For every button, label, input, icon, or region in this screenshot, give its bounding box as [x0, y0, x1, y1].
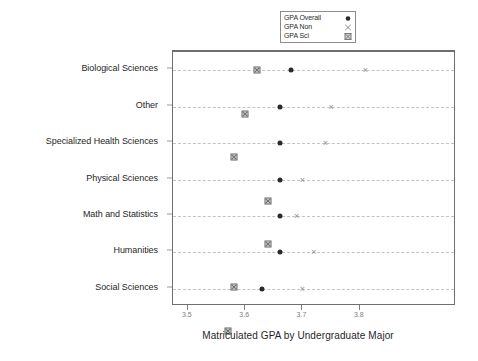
- legend-label: GPA Sci: [284, 31, 309, 40]
- crossed-square-icon: [343, 31, 353, 41]
- x-axis-tick-label: 3.8: [354, 311, 364, 318]
- category-label: Math and Statistics: [83, 209, 158, 219]
- category-gridline: [173, 107, 454, 108]
- x-axis-tick-label: 3.6: [239, 311, 249, 318]
- data-point-gpa-overall: [277, 177, 282, 182]
- category-gridline: [173, 70, 454, 71]
- x-axis-tick: [244, 305, 245, 310]
- legend-label: GPA Non: [284, 22, 312, 31]
- data-point-gpa-sci: [230, 284, 237, 291]
- x-axis-tick-label: 3.5: [182, 311, 192, 318]
- data-point-gpa-overall: [277, 250, 282, 255]
- category-axis-labels: Biological SciencesOtherSpecialized Heal…: [0, 50, 166, 305]
- category-gridline: [173, 180, 454, 181]
- data-point-gpa-sci: [230, 154, 237, 161]
- category-tick: [167, 213, 172, 214]
- category-gridline: [173, 216, 454, 217]
- category-label: Humanities: [113, 245, 158, 255]
- legend-label: GPA Overall: [284, 13, 321, 22]
- data-point-gpa-non: ×: [363, 66, 368, 75]
- category-label: Social Sciences: [95, 282, 158, 292]
- category-label: Other: [136, 100, 158, 110]
- data-point-gpa-sci: [242, 110, 249, 117]
- category-gridline: [173, 289, 454, 290]
- data-point-gpa-sci: [253, 67, 260, 74]
- category-tick: [167, 250, 172, 251]
- category-label: Specialized Health Sciences: [46, 136, 158, 146]
- data-point-gpa-sci: [265, 240, 272, 247]
- data-point-gpa-non: ×: [311, 248, 316, 257]
- category-tick: [167, 177, 172, 178]
- x-axis-tick: [301, 305, 302, 310]
- data-point-gpa-overall: [260, 286, 265, 291]
- category-tick: [167, 68, 172, 69]
- chart-legend: GPA Overall GPA Non GPA Sci: [280, 11, 356, 43]
- category-tick: [167, 141, 172, 142]
- data-point-gpa-non: ×: [328, 102, 333, 111]
- x-axis-title-text: Matriculated GPA by Undergraduate Major: [202, 330, 394, 341]
- data-point-gpa-non: ×: [300, 284, 305, 293]
- x-axis-tick-labels: 3.53.63.73.8: [172, 311, 455, 323]
- data-point-gpa-overall: [277, 104, 282, 109]
- chart-figure: GPA Overall GPA Non GPA Sci: [0, 0, 478, 361]
- x-axis-title: Matriculated GPA by Undergraduate Major: [0, 330, 478, 341]
- data-point-gpa-non: ×: [300, 175, 305, 184]
- legend-entry-gpa-sci: GPA Sci: [284, 31, 353, 40]
- data-point-gpa-non: ×: [294, 211, 299, 220]
- category-gridline: [173, 143, 454, 144]
- category-tick: [167, 104, 172, 105]
- plot-area: ×××××××: [172, 50, 455, 305]
- x-axis-tick: [359, 305, 360, 310]
- data-point-gpa-non: ×: [323, 139, 328, 148]
- x-axis-tick: [187, 305, 188, 310]
- category-label: Physical Sciences: [86, 173, 158, 183]
- data-point-gpa-sci: [265, 197, 272, 204]
- x-axis-tick-label: 3.7: [297, 311, 307, 318]
- category-tick: [167, 286, 172, 287]
- data-point-gpa-overall: [289, 68, 294, 73]
- category-label: Biological Sciences: [81, 63, 158, 73]
- data-point-gpa-overall: [277, 141, 282, 146]
- data-point-gpa-overall: [277, 213, 282, 218]
